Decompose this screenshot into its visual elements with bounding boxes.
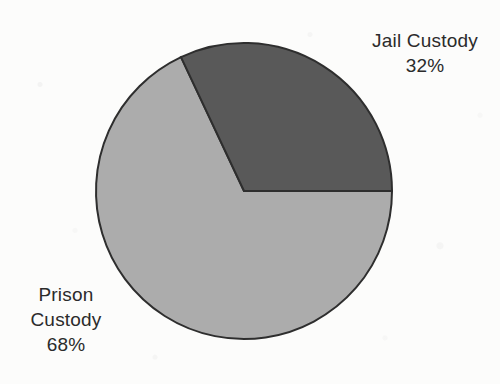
pie-label-jail-custody: Jail Custody 32% <box>355 28 495 78</box>
pie-label-prison-custody: Prison Custody 68% <box>6 282 126 357</box>
pie-chart-figure: Jail Custody 32% Prison Custody 68% <box>0 0 500 384</box>
pie-label-prison-custody-name-line1: Prison <box>6 282 126 307</box>
pie-label-jail-custody-percent: 32% <box>355 53 495 78</box>
pie-label-prison-custody-percent: 68% <box>6 332 126 357</box>
pie-label-prison-custody-name-line2: Custody <box>6 307 126 332</box>
pie-label-jail-custody-name: Jail Custody <box>355 28 495 53</box>
